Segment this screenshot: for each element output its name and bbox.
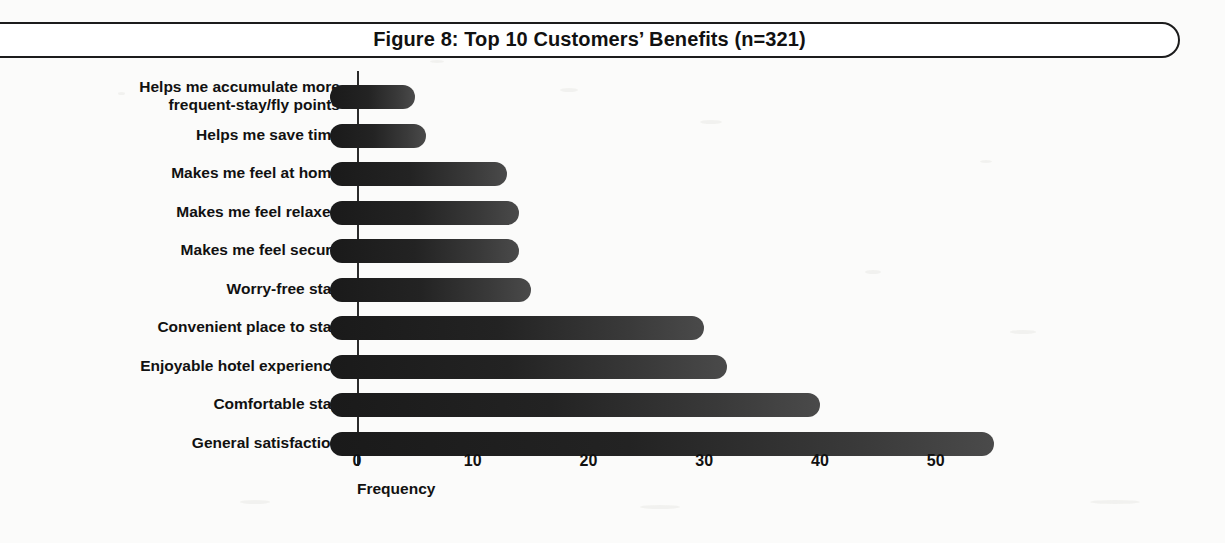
category-label: Comfortable stay — [20, 395, 340, 412]
bar — [330, 393, 820, 417]
page-title: Figure 8: Top 10 Customers’ Benefits (n=… — [0, 22, 1179, 58]
x-axis-title: Frequency — [357, 480, 435, 498]
figure-page: Figure 8: Top 10 Customers’ Benefits (n=… — [0, 0, 1225, 543]
bar — [330, 162, 507, 186]
category-label: Worry-free stay — [20, 280, 340, 297]
category-label: General satisfaction — [20, 434, 340, 451]
bar — [330, 85, 415, 109]
bar — [330, 239, 519, 263]
x-tick-label: 20 — [559, 452, 619, 470]
x-axis-ticks: 01020304050 — [0, 452, 1225, 476]
category-label: Helps me accumulate morefrequent-stay/fl… — [20, 78, 340, 113]
category-label: Makes me feel relaxed — [20, 203, 340, 220]
x-tick-label: 0 — [327, 452, 387, 470]
scan-speckle — [1090, 500, 1140, 504]
bar — [330, 316, 704, 340]
scan-speckle — [240, 500, 270, 504]
bar — [330, 124, 426, 148]
category-label: Helps me save time — [20, 126, 340, 143]
category-label: Enjoyable hotel experience — [20, 357, 340, 374]
scan-speckle — [430, 60, 444, 63]
category-label: Convenient place to stay — [20, 318, 340, 335]
bar — [330, 201, 519, 225]
x-tick-label: 50 — [906, 452, 966, 470]
bar — [330, 278, 531, 302]
category-label: Makes me feel at home — [20, 164, 340, 181]
chart-plot-area: Helps me accumulate morefrequent-stay/fl… — [0, 66, 1225, 486]
bar — [330, 355, 727, 379]
category-label: Makes me feel secure — [20, 241, 340, 258]
x-tick-label: 30 — [674, 452, 734, 470]
x-tick-label: 10 — [443, 452, 503, 470]
x-tick-label: 40 — [790, 452, 850, 470]
scan-speckle — [640, 505, 680, 509]
